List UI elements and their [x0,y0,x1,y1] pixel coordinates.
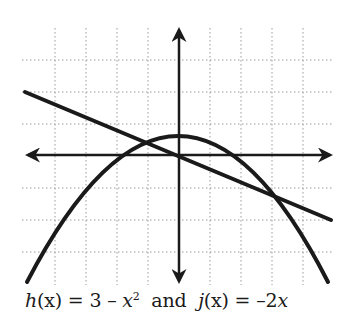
j-rhs: = –2 [229,289,278,311]
equation-caption: h(x) = 3 – x2 and j(x) = –2x [25,289,345,311]
h-arg: (x) [37,289,62,311]
graph [0,0,354,325]
j-var: x [277,289,288,311]
h-var: x [122,289,133,311]
j-arg: (x) [204,289,229,311]
h-name: h [25,289,37,311]
h-exponent: 2 [133,290,140,303]
h-rhs: = 3 – [62,289,122,311]
and-word: and [151,289,186,311]
